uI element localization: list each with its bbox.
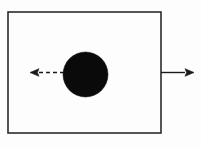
diagram-canvas: Filled circle inside a rectangle with tw… bbox=[0, 0, 201, 148]
filled-circle bbox=[63, 52, 108, 97]
diagram-figure bbox=[0, 0, 201, 148]
